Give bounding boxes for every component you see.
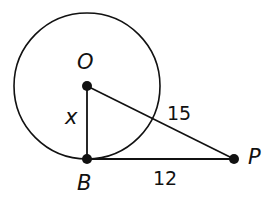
segment-op (87, 86, 234, 159)
point-b (82, 154, 92, 164)
geometry-diagram: O B P x 15 12 (0, 0, 264, 197)
diagram-canvas (0, 0, 264, 197)
label-o: O (77, 52, 94, 73)
label-op-length: 15 (167, 104, 191, 123)
label-p: P (248, 147, 261, 168)
label-bp-length: 12 (153, 169, 177, 188)
point-p (229, 154, 239, 164)
point-o (82, 81, 92, 91)
label-b: B (77, 173, 91, 194)
label-x: x (65, 107, 77, 128)
